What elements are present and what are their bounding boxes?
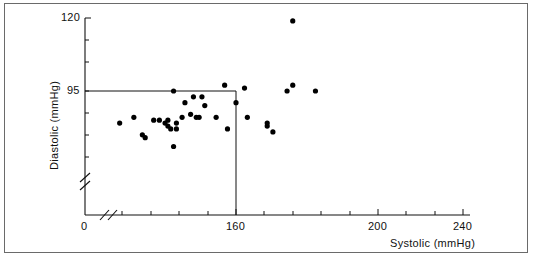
data-point — [214, 115, 219, 120]
data-point — [117, 121, 122, 126]
data-point — [233, 100, 238, 105]
data-point — [143, 135, 148, 140]
data-point — [151, 118, 156, 123]
x-axis-ticks — [122, 209, 463, 215]
y-tick-label-95: 95 — [67, 84, 80, 96]
data-point — [188, 112, 193, 117]
data-point — [242, 85, 247, 90]
data-point — [165, 118, 170, 123]
data-point — [284, 88, 289, 93]
y-axis-title: Diastolic (mmHg) — [48, 81, 60, 170]
data-point — [313, 88, 318, 93]
data-point — [222, 83, 227, 88]
data-point — [290, 18, 295, 23]
data-point — [191, 94, 196, 99]
data-point — [202, 103, 207, 108]
data-point — [290, 83, 295, 88]
data-point — [171, 144, 176, 149]
data-point — [179, 115, 184, 120]
figure-container: 120 95 0 160 200 240 Systolic (mmHg) Dia… — [0, 0, 533, 258]
data-point — [157, 118, 162, 123]
x-tick-label-240: 240 — [453, 220, 472, 232]
data-point — [131, 115, 136, 120]
data-point — [225, 126, 230, 131]
data-point — [171, 88, 176, 93]
data-point — [265, 123, 270, 128]
y-tick-label-120: 120 — [61, 11, 80, 23]
data-point — [182, 100, 187, 105]
data-point — [168, 126, 173, 131]
data-point — [174, 126, 179, 131]
data-point — [174, 121, 179, 126]
x-tick-label-0: 0 — [81, 220, 87, 232]
x-tick-label-200: 200 — [368, 220, 387, 232]
x-tick-label-160: 160 — [226, 220, 245, 232]
y-axis-ticks — [85, 18, 91, 157]
x-axis-title: Systolic (mmHg) — [390, 237, 475, 249]
data-point — [245, 115, 250, 120]
data-point — [270, 129, 275, 134]
data-point — [199, 94, 204, 99]
data-point — [197, 115, 202, 120]
data-points-group — [117, 18, 318, 149]
